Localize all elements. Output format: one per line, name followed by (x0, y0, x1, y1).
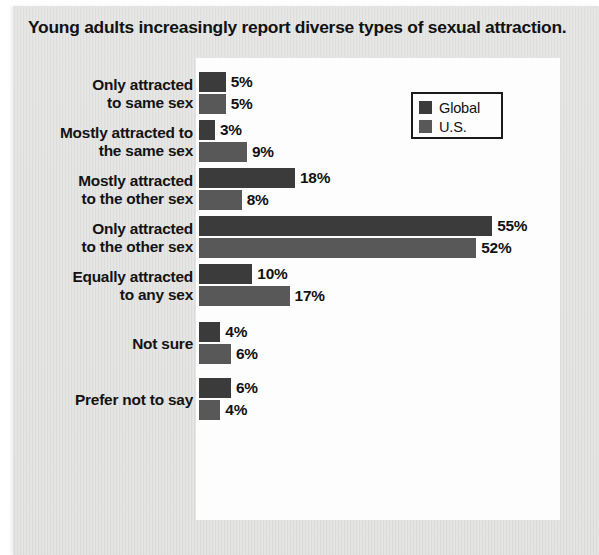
bar (199, 264, 252, 284)
bar-group: Mostly attractedto the other sex18%8% (13, 166, 599, 214)
bar-value-label: 8% (247, 191, 269, 209)
bar-pair: 5%5% (199, 70, 599, 118)
chart-title: Young adults increasingly report diverse… (28, 17, 573, 38)
category-label: Equally attractedto any sex (23, 262, 193, 310)
bar-pair: 10%17% (199, 262, 599, 310)
bar (199, 190, 242, 210)
bar-group: Only attractedto the other sex55%52% (13, 214, 599, 262)
bar-value-label: 18% (300, 169, 330, 187)
category-label-line: Not sure (132, 335, 193, 354)
bar-pair: 3%9% (199, 118, 599, 166)
bar (199, 400, 220, 420)
bar (199, 120, 215, 140)
category-label-line: Only attracted (92, 76, 193, 95)
chart-figure: Young adults increasingly report diverse… (0, 0, 599, 555)
legend-swatch-global-icon (419, 101, 432, 114)
category-label: Only attractedto same sex (23, 70, 193, 118)
bar-value-label: 17% (295, 287, 325, 305)
bar-row-global: 6% (199, 378, 258, 398)
bar (199, 322, 220, 342)
bar-row-global: 10% (199, 264, 288, 284)
category-label-line: Prefer not to say (75, 391, 193, 410)
chart-legend: Global U.S. (411, 92, 503, 139)
category-label-line: Mostly attracted (78, 172, 193, 191)
bar-group: Prefer not to say6%4% (13, 376, 599, 424)
category-label-line: to same sex (107, 94, 193, 113)
bar-group: Only attractedto same sex5%5% (13, 70, 599, 118)
bar-row-global: 55% (199, 216, 527, 236)
bar-value-label: 3% (220, 121, 242, 139)
bar-value-label: 6% (236, 379, 258, 397)
category-label: Only attractedto the other sex (23, 214, 193, 262)
legend-item-us: U.S. (419, 117, 501, 136)
category-label-line: Equally attracted (72, 268, 193, 287)
bar (199, 238, 476, 258)
category-label-line: to the other sex (82, 238, 193, 257)
bar-value-label: 9% (252, 143, 274, 161)
bar-value-label: 6% (236, 345, 258, 363)
bar-value-label: 5% (231, 73, 253, 91)
category-label-line: to the other sex (82, 190, 193, 209)
category-label-line: to any sex (120, 286, 193, 305)
bar-groups: Only attractedto same sex5%5%Mostly attr… (13, 58, 599, 520)
legend-item-global: Global (419, 98, 501, 117)
category-label: Mostly attracted tothe same sex (23, 118, 193, 166)
bar (199, 286, 290, 306)
legend-swatch-us-icon (419, 120, 432, 133)
bar-value-label: 55% (497, 217, 527, 235)
bar-value-label: 52% (481, 239, 511, 257)
category-label: Not sure (23, 320, 193, 368)
bar (199, 72, 226, 92)
bar-group: Not sure4%6% (13, 320, 599, 368)
bar-value-label: 4% (225, 323, 247, 341)
bar (199, 344, 231, 364)
bar-row-global: 4% (199, 322, 247, 342)
bar-value-label: 5% (231, 95, 253, 113)
bar-row-us: 9% (199, 142, 274, 162)
legend-label-us: U.S. (439, 119, 467, 135)
bar-value-label: 10% (257, 265, 287, 283)
bar (199, 168, 295, 188)
bar-row-us: 17% (199, 286, 325, 306)
bar-group: Mostly attracted tothe same sex3%9% (13, 118, 599, 166)
bar-row-us: 52% (199, 238, 511, 258)
bar-row-global: 5% (199, 72, 253, 92)
bar-row-us: 8% (199, 190, 268, 210)
bar (199, 378, 231, 398)
bar-pair: 18%8% (199, 166, 599, 214)
category-label-line: Only attracted (92, 220, 193, 239)
bar-value-label: 4% (225, 401, 247, 419)
legend-label-global: Global (439, 100, 480, 116)
bar (199, 94, 226, 114)
bar-row-us: 5% (199, 94, 253, 114)
category-label-line: Mostly attracted to (60, 124, 193, 143)
bar-row-global: 3% (199, 120, 242, 140)
category-label: Prefer not to say (23, 376, 193, 424)
bar-pair: 4%6% (199, 320, 599, 368)
category-label: Mostly attractedto the other sex (23, 166, 193, 214)
bar-pair: 55%52% (199, 214, 599, 262)
bar-pair: 6%4% (199, 376, 599, 424)
bar (199, 142, 247, 162)
bar-row-us: 6% (199, 344, 258, 364)
bar-row-global: 18% (199, 168, 330, 188)
bar-row-us: 4% (199, 400, 247, 420)
bar-group: Equally attractedto any sex10%17% (13, 262, 599, 310)
category-label-line: the same sex (99, 142, 193, 161)
bar (199, 216, 492, 236)
